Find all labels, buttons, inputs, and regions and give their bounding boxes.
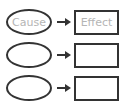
arrow-right-icon	[57, 50, 71, 60]
cause-oval: Cause	[6, 9, 52, 35]
effect-box: Effect	[74, 10, 119, 35]
cause-effect-row-1: Cause Effect	[0, 9, 127, 39]
effect-box	[74, 76, 119, 101]
cause-effect-row-2	[0, 42, 127, 72]
arrow-right-icon	[57, 17, 71, 27]
cause-oval	[6, 75, 52, 101]
effect-label: Effect	[81, 16, 113, 29]
arrow-right-icon	[57, 83, 71, 93]
cause-oval	[6, 42, 52, 68]
cause-label: Cause	[12, 16, 46, 29]
effect-box	[74, 43, 119, 68]
cause-effect-row-3	[0, 75, 127, 105]
